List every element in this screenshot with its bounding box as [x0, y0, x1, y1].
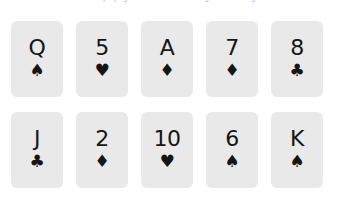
playing-card-six-of-spades[interactable]: 6♠: [206, 112, 258, 188]
playing-card-ace-of-diamonds[interactable]: A♦: [141, 21, 193, 97]
clubs-suit-icon: ♣: [29, 153, 44, 170]
card-rank: 10: [154, 128, 181, 150]
playing-card-ten-of-hearts[interactable]: 10♥: [141, 112, 193, 188]
spades-suit-icon: ♠: [224, 153, 239, 170]
diamonds-suit-icon: ♦: [159, 62, 174, 79]
playing-card-seven-of-diamonds[interactable]: 7♦: [206, 21, 258, 97]
spades-suit-icon: ♠: [29, 62, 44, 79]
hearts-suit-icon: ♥: [94, 62, 109, 79]
card-rank: 2: [95, 128, 109, 150]
diamonds-suit-icon: ♦: [94, 153, 109, 170]
card-rank: 6: [225, 128, 239, 150]
card-rank: Q: [29, 37, 46, 59]
playing-card-queen-of-spades[interactable]: Q♠: [11, 21, 63, 97]
clubs-suit-icon: ♣: [289, 62, 304, 79]
card-rank: J: [34, 128, 40, 150]
playing-card-eight-of-clubs[interactable]: 8♣: [271, 21, 323, 97]
playing-card-five-of-hearts[interactable]: 5♥: [76, 21, 128, 97]
card-grid: Q♠5♥A♦7♦8♣J♣2♦10♥6♠K♠: [11, 21, 323, 188]
playing-card-two-of-diamonds[interactable]: 2♦: [76, 112, 128, 188]
card-rank: 7: [225, 37, 239, 59]
diamonds-suit-icon: ♦: [224, 62, 239, 79]
clipped-caption-text: a row of playing cards on a white backgr…: [0, 0, 364, 3]
card-rank: 5: [95, 37, 109, 59]
card-rank: 8: [290, 37, 304, 59]
card-rank: K: [290, 128, 304, 150]
spades-suit-icon: ♠: [289, 153, 304, 170]
hearts-suit-icon: ♥: [159, 153, 174, 170]
playing-card-king-of-spades[interactable]: K♠: [271, 112, 323, 188]
card-row: Q♠5♥A♦7♦8♣: [11, 21, 323, 97]
playing-card-jack-of-clubs[interactable]: J♣: [11, 112, 63, 188]
card-rank: A: [160, 37, 175, 59]
card-row: J♣2♦10♥6♠K♠: [11, 112, 323, 188]
